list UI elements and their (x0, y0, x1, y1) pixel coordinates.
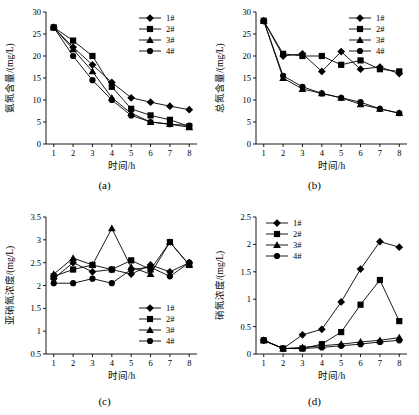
legend-label-3#: 3# (166, 35, 175, 45)
data-point-marker-square (338, 329, 344, 335)
data-point-marker-square (280, 51, 286, 57)
data-point-marker-circle (261, 18, 267, 24)
data-point-marker-circle (186, 122, 192, 128)
data-point-marker-square (319, 53, 325, 59)
y-tick-label: 2.5 (30, 258, 41, 268)
legend-label-2#: 2# (166, 314, 175, 324)
data-point-marker-square (377, 66, 383, 72)
legend-d: 1#2#3#4# (266, 218, 302, 261)
x-tick-label: 7 (168, 358, 172, 368)
data-point-marker-circle (261, 337, 267, 343)
legend-c: 1#2#3#4# (139, 303, 175, 346)
legend-a: 1#2#3#4# (139, 13, 175, 56)
x-tick-label: 8 (397, 358, 401, 368)
x-tick-label: 6 (148, 148, 152, 158)
legend-label-1#: 1# (293, 218, 302, 228)
y-tick-label: 1.5 (30, 303, 41, 313)
data-point-marker-circle (128, 112, 134, 118)
x-tick-label: 2 (71, 358, 75, 368)
data-point-marker-circle (186, 260, 192, 266)
data-point-marker-diamond (146, 304, 154, 312)
y-tick-label: 10 (33, 95, 42, 105)
x-tick-label: 7 (168, 148, 172, 158)
data-point-marker-triangle (69, 254, 77, 261)
legend-label-3#: 3# (166, 325, 175, 335)
x-tick-label: 8 (187, 148, 191, 158)
data-point-marker-diamond (299, 331, 307, 339)
data-point-marker-circle (377, 339, 383, 345)
data-point-marker-circle (299, 84, 305, 90)
data-point-marker-circle (319, 344, 325, 350)
data-point-marker-triangle (273, 241, 281, 248)
y-tick-label: 20 (33, 51, 42, 61)
y-tick-label: 1 (37, 326, 41, 336)
legend-label-2#: 2# (166, 24, 175, 34)
x-tick-label: 4 (320, 148, 325, 158)
legend-label-1#: 1# (166, 303, 175, 313)
y-tick-label: 2.5 (240, 212, 251, 222)
chart-svg-a: 05101520253012345678时间/h氨氮含量/(mg/L)1#2#3… (2, 2, 207, 178)
data-point-marker-circle (357, 341, 363, 347)
x-tick-label: 1 (52, 148, 56, 158)
data-point-marker-circle (274, 253, 280, 259)
y-tick-label: 30 (243, 7, 252, 17)
data-point-marker-triangle (146, 36, 154, 43)
data-point-marker-circle (109, 97, 115, 103)
x-tick-label: 6 (358, 358, 362, 368)
data-point-marker-diamond (337, 298, 345, 306)
y-tick-label: 2 (37, 281, 41, 291)
x-tick-label: 2 (281, 358, 285, 368)
y-tick-label: 5 (37, 117, 41, 127)
data-point-marker-diamond (147, 98, 155, 106)
series-4# (261, 337, 403, 351)
data-point-marker-square (274, 231, 280, 237)
y-tick-label: 25 (243, 29, 252, 39)
y-tick-label: 0 (247, 139, 251, 149)
data-point-marker-circle (70, 280, 76, 286)
panel-caption-c: (c) (2, 395, 207, 407)
data-point-marker-square (377, 277, 383, 283)
y-tick-label: 3 (37, 235, 41, 245)
chart-panel-a: 05101520253012345678时间/h氨氮含量/(mg/L)1#2#3… (2, 2, 207, 194)
data-point-marker-circle (377, 106, 383, 112)
x-tick-label: 2 (281, 148, 285, 158)
x-tick-label: 1 (262, 148, 266, 158)
data-point-marker-circle (51, 280, 57, 286)
data-point-marker-square (357, 26, 363, 32)
chart-svg-b: 05101520253012345678时间/h总氮含量/(mg/L)1#2#3… (212, 2, 417, 178)
data-point-marker-circle (147, 264, 153, 270)
data-point-marker-square (147, 112, 153, 118)
series-1# (260, 238, 403, 353)
y-tick-label: 10 (243, 95, 252, 105)
data-point-marker-diamond (376, 238, 384, 246)
data-point-marker-diamond (185, 106, 193, 114)
data-point-marker-circle (89, 276, 95, 282)
x-axis-label: 时间/h (318, 160, 346, 171)
data-point-marker-diamond (273, 219, 281, 227)
x-tick-label: 3 (90, 358, 94, 368)
data-point-marker-square (70, 38, 76, 44)
x-tick-label: 4 (110, 358, 115, 368)
y-axis-label: 硝氮浓度/(mg/L) (214, 251, 226, 321)
y-tick-label: 0 (247, 349, 251, 359)
y-axis-label: 亚硝氮浓度/(mg/L) (4, 246, 16, 326)
x-tick-label: 7 (378, 358, 382, 368)
data-point-marker-square (338, 62, 344, 68)
data-point-marker-circle (319, 90, 325, 96)
x-tick-label: 8 (187, 358, 191, 368)
y-tick-label: 0 (37, 139, 41, 149)
data-point-marker-diamond (166, 102, 174, 110)
panel-caption-a: (a) (2, 179, 207, 191)
y-tick-label: 15 (33, 73, 42, 83)
x-tick-label: 1 (262, 358, 266, 368)
chart-svg-d: 00.511.522.512345678时间/h硝氮浓度/(mg/L)1#2#3… (212, 205, 417, 394)
data-point-marker-square (147, 316, 153, 322)
x-tick-label: 1 (52, 358, 56, 368)
x-tick-label: 5 (339, 148, 343, 158)
y-tick-label: 25 (33, 29, 42, 39)
x-axis-label: 时间/h (318, 370, 346, 381)
x-tick-label: 3 (90, 148, 94, 158)
data-point-marker-diamond (356, 14, 364, 22)
x-axis-label: 时间/h (108, 370, 136, 381)
legend-b: 1#2#3#4# (349, 13, 385, 56)
